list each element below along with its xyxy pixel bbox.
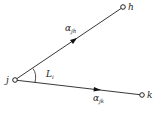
node-j [13, 78, 18, 83]
angle-arc [33, 69, 36, 83]
edge-label-jk: αjk [93, 93, 105, 105]
diagram-canvas: j h k αjh Li αjk [0, 0, 155, 114]
node-label-k: k [147, 90, 152, 100]
arrow-jk-icon [94, 87, 102, 92]
edge-jh [17, 9, 121, 79]
edge-jk [17, 80, 140, 94]
node-k [140, 93, 145, 98]
angle-label: Li [45, 69, 54, 80]
node-label-h: h [128, 2, 134, 12]
node-h [121, 5, 126, 10]
edge-label-jh: αjh [65, 23, 77, 35]
node-label-j: j [4, 75, 9, 85]
arrow-jh-icon [70, 38, 77, 44]
